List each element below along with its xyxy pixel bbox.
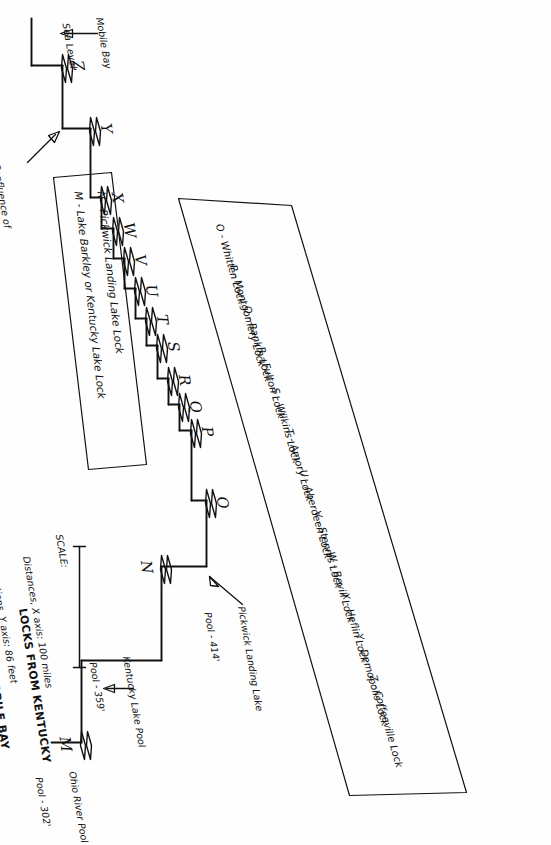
lock-letter-O: O [212,495,232,510]
mobile-bay-line-1: Mobile Bay [93,16,113,69]
ohio-river-pool-line-2: Pool - 302' [33,776,57,845]
lock-letter-W: W [119,221,139,239]
pickwick-pool-line-1: Pickwick Landing Lake [235,605,265,712]
scale-line-x: Distances, X axis: 100 miles [20,555,54,689]
scale-line-y: Elevations, Y axis: 86 feet [0,561,21,695]
lock-letter-R: R [174,373,193,387]
lock-letter-P: P [197,425,216,438]
kentucky-lake-pool-line-1: Kentucky Lake Pool [120,655,147,748]
diagram-page: N - Pickwick Landing Lake Lock M - Lake … [0,0,551,845]
lock-letter-S: S [163,340,182,353]
lock-letter-V: V [130,253,149,266]
lock-letter-T: T [152,313,171,325]
lock-letter-N: N [136,559,156,575]
arrow-confluence [27,131,59,162]
scale-bar [73,546,85,667]
pickwick-pool-line-2: Pool - 414' [202,611,232,718]
lock-letter-U: U [141,283,161,298]
mobile-bay-line-2: Sea Level [60,22,80,75]
ohio-river-pool-line-1: Ohio River Pool [66,770,90,843]
kentucky-lake-pool-line-2: Pool - 359' [87,661,114,754]
annotation-pickwick-landing-lake-pool: Pickwick Landing Lake Pool - 414' [180,601,287,722]
confluence-line-1: Confluence of [0,162,18,259]
drawing-canvas: N - Pickwick Landing Lake Lock M - Lake … [0,0,551,845]
lock-letter-Q: Q [185,399,205,414]
lock-letter-Y: Y [96,122,115,134]
arrow-pickwick-pool [209,576,242,604]
annotation-kentucky-lake-pool: Kentucky Lake Pool Pool - 359' [65,651,169,758]
lock-letter-X: X [107,191,126,204]
